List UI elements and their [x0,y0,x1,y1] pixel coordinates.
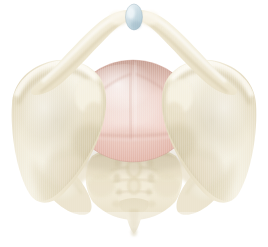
bottom-fade [0,212,268,247]
illustration-canvas: Fetal head engaged in the female pelvic … [0,0,268,247]
raster-texture-overlay [0,0,268,247]
pelvis-fetal-head-diagram [0,0,268,247]
